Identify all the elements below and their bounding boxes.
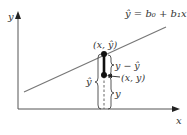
observed-point-label: (x, y) bbox=[121, 72, 145, 83]
x-axis bbox=[18, 106, 180, 112]
y-brace bbox=[108, 77, 114, 109]
x-axis-arrow-icon bbox=[172, 106, 180, 112]
y-axis-label: y bbox=[7, 11, 14, 22]
residual-brace bbox=[108, 55, 114, 75]
y-hat-brace bbox=[95, 54, 101, 109]
regression-equation: ŷ = b₀ + b₁x bbox=[124, 8, 187, 19]
regression-diagram: y x ŷ = b₀ + b₁x ŷ y − ŷ y (x, ŷ) (x, y) bbox=[0, 0, 187, 135]
y-axis bbox=[15, 11, 21, 109]
y-axis-arrow-icon bbox=[15, 11, 21, 19]
y-brace-label: y bbox=[114, 88, 121, 99]
y-hat-brace-label: ŷ bbox=[85, 76, 92, 87]
predicted-point bbox=[101, 51, 107, 57]
observed-point bbox=[101, 72, 107, 78]
residual-brace-label: y − ŷ bbox=[114, 60, 140, 71]
predicted-point-label: (x, ŷ) bbox=[93, 39, 117, 50]
x-axis-label: x bbox=[176, 115, 182, 126]
